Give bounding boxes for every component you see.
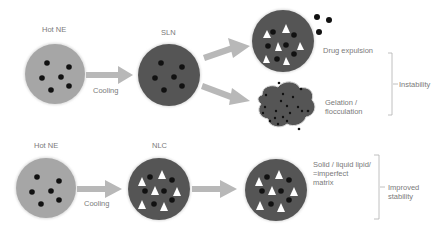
label-hot-ne-bottom: Hot NE xyxy=(34,141,58,150)
cooling-arrow-top xyxy=(86,66,133,84)
diagram-canvas xyxy=(0,0,444,230)
hot-ne-droplet-top xyxy=(24,43,86,105)
label-nlc: NLC xyxy=(152,141,167,150)
label-gelation-line1: Gelation / xyxy=(325,98,357,107)
label-solid-liquid-line3: matrix xyxy=(313,178,333,187)
gelation-aggregate xyxy=(258,82,315,131)
label-instability: Instability xyxy=(399,80,430,89)
label-hot-ne-top: Hot NE xyxy=(42,25,66,34)
label-solid-liquid-line2: =imperfect xyxy=(313,169,348,178)
nlc-particle xyxy=(127,157,191,221)
sln-particle xyxy=(137,43,201,107)
cooling-arrow-bottom xyxy=(77,180,122,198)
label-cooling-top: Cooling xyxy=(93,86,118,95)
label-solid-liquid-line1: Solid / liquid lipid/ xyxy=(313,160,371,169)
hot-ne-droplet-bottom xyxy=(15,157,77,219)
label-sln: SLN xyxy=(161,28,176,37)
arrow-to-gelation xyxy=(201,83,250,105)
label-improved-line1: Improved xyxy=(388,183,419,192)
label-gelation-line2: flocculation xyxy=(325,107,363,116)
instability-bracket xyxy=(388,53,398,115)
label-drug-expulsion: Drug expulsion xyxy=(323,46,373,55)
stability-arrow xyxy=(192,180,237,198)
label-improved-line2: stability xyxy=(388,192,413,201)
arrow-to-drug-expulsion xyxy=(203,38,250,61)
drug-expulsion-particle xyxy=(251,9,332,73)
improved-stability-bracket xyxy=(374,155,385,219)
nlc-stable-particle xyxy=(244,158,308,222)
label-cooling-bottom: Cooling xyxy=(84,199,109,208)
